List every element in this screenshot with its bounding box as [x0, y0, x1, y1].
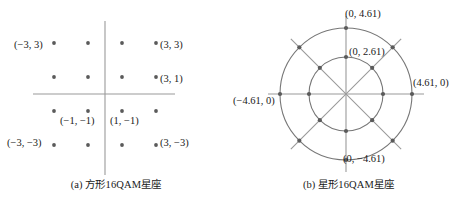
label-m461-0: (−4.61, 0) — [233, 95, 275, 106]
constellation-point — [344, 26, 348, 30]
panel-star-16qam: (b) 星形16QAM星座 (0, 4.61)(0, 2.61)(4.61, 0… — [232, 0, 465, 204]
figure-root: (a) 方形16QAM星座 (−3, 3)(3, 3)(3, 1)(−1, −1… — [0, 0, 465, 204]
constellation-point — [154, 41, 158, 45]
constellation-point — [370, 118, 374, 122]
constellation-point — [154, 143, 158, 147]
label-3-3: (3, 3) — [160, 39, 183, 50]
constellation-point — [52, 109, 56, 113]
constellation-point — [52, 143, 56, 147]
constellation-point — [120, 41, 124, 45]
caption-panel-b: (b) 星形16QAM星座 — [232, 176, 465, 191]
label-0-261: (0, 2.61) — [349, 46, 385, 57]
label-m3-3: (−3, 3) — [14, 39, 43, 50]
constellation-point — [86, 41, 90, 45]
label-3-1: (3, 1) — [160, 73, 183, 84]
caption-panel-a: (a) 方形16QAM星座 — [0, 176, 232, 191]
constellation-point — [307, 92, 311, 96]
star-constellation-plot — [232, 0, 465, 178]
constellation-point — [391, 139, 395, 143]
label-0-m461: (0, −4.61) — [343, 153, 385, 164]
constellation-point — [86, 75, 90, 79]
constellation-point — [120, 143, 124, 147]
label-461-0: (4.61, 0) — [413, 77, 449, 88]
constellation-point — [344, 129, 348, 133]
constellation-point — [410, 92, 414, 96]
constellation-point — [120, 75, 124, 79]
square-constellation-plot — [0, 0, 232, 178]
constellation-point — [318, 66, 322, 70]
label-m1-m1: (−1, −1) — [60, 115, 95, 126]
panel-square-16qam: (a) 方形16QAM星座 (−3, 3)(3, 3)(3, 1)(−1, −1… — [0, 0, 232, 204]
constellation-point — [278, 92, 282, 96]
label-m3-m3: (−3, −3) — [7, 137, 42, 148]
constellation-point — [344, 55, 348, 59]
constellation-point — [154, 109, 158, 113]
constellation-point — [120, 109, 124, 113]
constellation-point — [52, 75, 56, 79]
constellation-point — [391, 45, 395, 49]
constellation-point — [154, 75, 158, 79]
constellation-point — [381, 92, 385, 96]
constellation-point — [318, 118, 322, 122]
constellation-point — [86, 109, 90, 113]
constellation-point — [86, 143, 90, 147]
constellation-point — [297, 45, 301, 49]
label-3-m3: (3, −3) — [160, 137, 189, 148]
label-1-m1: (1, −1) — [110, 115, 139, 126]
label-0-461: (0, 4.61) — [345, 8, 381, 19]
constellation-point — [297, 139, 301, 143]
constellation-point — [370, 66, 374, 70]
constellation-point — [52, 41, 56, 45]
